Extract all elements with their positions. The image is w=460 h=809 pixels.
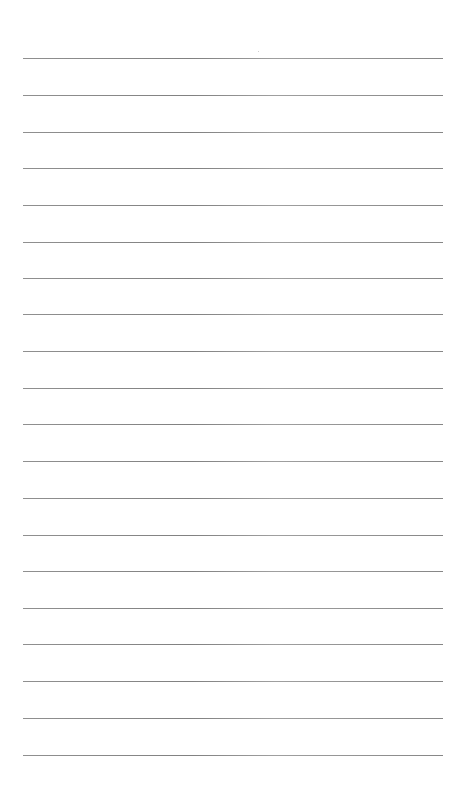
ruled-line [23,571,443,572]
ruled-line [23,314,443,315]
ruled-line [23,644,443,645]
ruled-line [23,608,443,609]
ruled-line [23,168,443,169]
ruled-line [23,461,443,462]
ruled-line [23,498,443,499]
ruled-line [23,132,443,133]
ruled-line [23,718,443,719]
paper-speck [258,51,259,52]
ruled-line [23,755,443,756]
ruled-paper-page [0,0,460,809]
ruled-line [23,278,443,279]
ruled-line [23,681,443,682]
ruled-line [23,351,443,352]
ruled-line [23,58,443,59]
ruled-line [23,205,443,206]
ruled-line [23,95,443,96]
ruled-line [23,388,443,389]
ruled-line [23,535,443,536]
ruled-line [23,242,443,243]
ruled-line [23,424,443,425]
